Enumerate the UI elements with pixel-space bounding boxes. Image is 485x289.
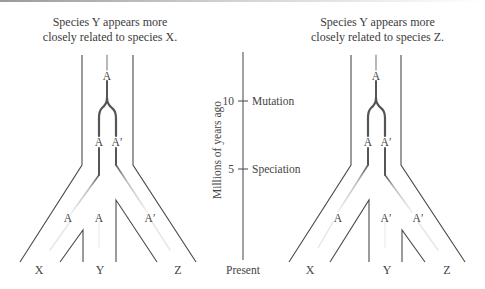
left-gene-labels: A A A′ A A A′ [64, 70, 156, 224]
right-allele-a: A [364, 136, 373, 148]
left-species-labels: X Y Z [35, 263, 182, 277]
tick-5-event: Speciation [252, 163, 301, 176]
right-gene-labels: A A A′ A A′ A′ [334, 70, 424, 224]
left-root-allele: A [103, 70, 112, 82]
left-tip-y-allele: A [95, 212, 104, 224]
tick-10-event: Mutation [252, 95, 294, 107]
phylogeny-diagram: A A A′ A A A′ X Y Z 10 Mutation 5 Specia… [0, 0, 485, 289]
left-species-z: Z [174, 263, 181, 277]
right-species-z: Z [443, 263, 450, 277]
right-species-y: Y [383, 263, 392, 277]
axis-title: Millions of years ago [211, 101, 224, 199]
axis-present-label: Present [226, 264, 261, 276]
right-tip-y-allele: A′ [381, 212, 392, 224]
right-species-labels: X Y Z [306, 263, 451, 277]
left-species-y: Y [96, 263, 105, 277]
left-tip-x-allele: A [64, 212, 73, 224]
right-species-x: X [306, 263, 315, 277]
left-allele-a-prime: A′ [112, 136, 123, 148]
right-root-allele: A [372, 70, 381, 82]
right-tip-x-allele: A [334, 212, 343, 224]
left-tip-z-allele: A′ [145, 212, 156, 224]
tick-10-value: 10 [223, 95, 235, 107]
right-allele-a-prime: A′ [381, 136, 392, 148]
left-allele-a: A [95, 136, 104, 148]
left-species-x: X [35, 263, 44, 277]
tick-5-value: 5 [228, 163, 234, 175]
right-tip-z-allele: A′ [413, 212, 424, 224]
time-axis: 10 Mutation 5 Speciation Present Million… [211, 52, 301, 276]
